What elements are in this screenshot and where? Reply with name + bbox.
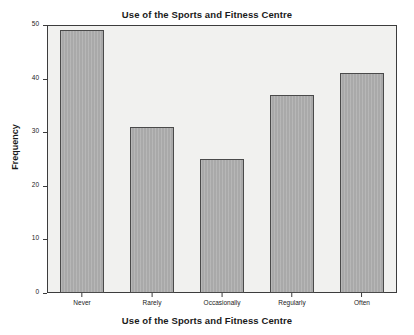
y-axis-tick-label: 50 [32, 20, 39, 27]
x-axis-ticks: NeverRarelyOccasionallyRegularlyOften [47, 293, 397, 317]
y-axis-tick-label: 0 [35, 288, 39, 295]
bar-rarely[interactable] [130, 127, 173, 293]
y-axis-tick-label: 20 [32, 181, 39, 188]
bars-container [47, 25, 397, 293]
x-axis-tick-label: Regularly [278, 299, 305, 306]
x-axis-tick: Often [354, 293, 370, 306]
bar-regularly[interactable] [270, 95, 313, 293]
bar-often[interactable] [340, 73, 383, 293]
x-axis-tick-mark [362, 293, 363, 297]
chart-title: Use of the Sports and Fitness Centre [0, 9, 414, 20]
bar-never[interactable] [60, 30, 103, 293]
bar-slot [270, 25, 313, 293]
x-axis-tick-label: Rarely [143, 299, 162, 306]
y-axis-tick-label: 40 [32, 74, 39, 81]
x-axis-tick-mark [221, 293, 222, 297]
y-axis-tick-label: 10 [32, 234, 39, 241]
x-axis-tick-label: Never [73, 299, 90, 306]
x-axis-tick-mark [151, 293, 152, 297]
y-axis-tick-label: 30 [32, 127, 39, 134]
bar-chart: Use of the Sports and Fitness Centre Fre… [0, 0, 414, 335]
x-axis-title: Use of the Sports and Fitness Centre [0, 315, 414, 326]
x-axis-tick: Regularly [278, 293, 305, 306]
x-axis-tick-mark [82, 293, 83, 297]
x-axis-tick: Never [73, 293, 90, 306]
x-axis-tick-label: Occasionally [204, 299, 241, 306]
bar-slot [340, 25, 383, 293]
x-axis-tick: Occasionally [204, 293, 241, 306]
bar-slot [130, 25, 173, 293]
x-axis-tick: Rarely [143, 293, 162, 306]
y-axis-title-text: Frequency [10, 124, 20, 170]
x-axis-tick-mark [292, 293, 293, 297]
bar-occasionally[interactable] [200, 159, 243, 293]
bar-slot [60, 25, 103, 293]
bar-slot [200, 25, 243, 293]
y-axis-title: Frequency [6, 0, 24, 293]
x-axis-tick-label: Often [354, 299, 370, 306]
